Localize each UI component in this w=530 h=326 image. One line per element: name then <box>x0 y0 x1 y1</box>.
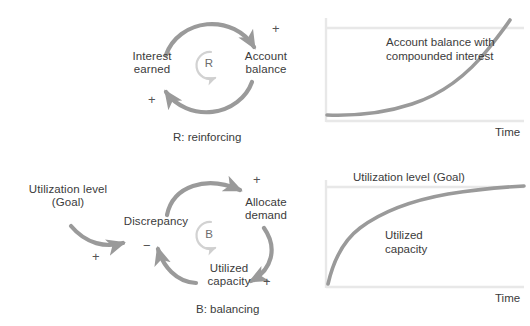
balancing-loop-caption: B: balancing <box>196 303 259 316</box>
link-utilized-to-discrepancy <box>158 249 196 283</box>
polarity-plus-goal-to-discrepancy: + <box>92 250 100 263</box>
chart-utilized-capacity-title: Utilized capacity <box>385 228 427 256</box>
polarity-plus-allocate-demand: + <box>253 173 261 186</box>
reinforcing-loop-letter: R <box>200 57 218 70</box>
chart-account-balance-xaxis-label: Time <box>495 126 520 139</box>
polarity-plus-interest-earned: + <box>148 93 156 106</box>
link-discrepancy-to-allocate <box>167 183 240 215</box>
node-allocate-demand: Allocate demand <box>233 196 299 222</box>
node-discrepancy: Discrepancy <box>116 215 196 228</box>
chart-account-balance-frame <box>326 18 524 122</box>
polarity-minus-utilized-to-discrepancy: − <box>143 239 151 252</box>
balancing-loop-letter: B <box>200 228 218 241</box>
chart-utilized-capacity-goal-label: Utilization level (Goal) <box>353 170 465 184</box>
reinforcing-loop-caption: R: reinforcing <box>173 131 241 144</box>
link-balance-to-interest <box>166 82 252 112</box>
node-interest-earned: Interest earned <box>121 50 183 76</box>
chart-account-balance-title: Account balance with compounded interest <box>386 35 495 63</box>
node-utilization-level-goal: Utilization level (Goal) <box>13 183 123 209</box>
polarity-plus-account-balance: + <box>272 22 280 35</box>
link-goal-to-discrepancy <box>71 226 123 245</box>
node-account-balance: Account balance <box>233 50 299 76</box>
chart-utilized-capacity-xaxis-label: Time <box>495 292 520 305</box>
node-utilized-capacity: Utilized capacity <box>196 262 262 288</box>
polarity-plus-utilized-capacity: + <box>263 275 271 288</box>
causal-loop-diagram-figure: Interest earned Account balance R + + R:… <box>0 0 530 326</box>
